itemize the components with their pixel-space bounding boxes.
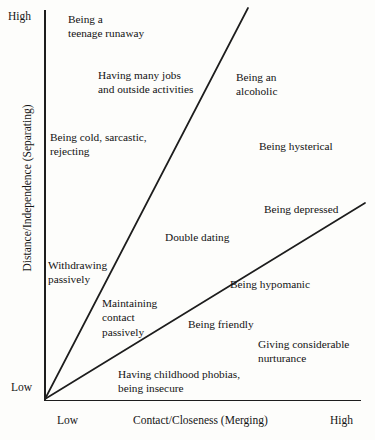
label-alcoholic: Being an alcoholic (236, 70, 277, 99)
figure-root: High Low Low High Contact/Closeness (Mer… (0, 0, 375, 440)
label-hypomanic: Being hypomanic (230, 277, 310, 291)
label-maintaining-contact: Maintaining contact passively (102, 296, 157, 339)
label-friendly: Being friendly (188, 317, 254, 331)
label-double-dating: Double dating (165, 230, 229, 244)
label-cold-sarcastic: Being cold, sarcastic, rejecting (50, 130, 147, 159)
label-withdrawing: Withdrawing passively (48, 258, 107, 287)
label-hysterical: Being hysterical (259, 139, 333, 153)
label-childhood-phobias: Having childhood phobias, being insecure (118, 367, 240, 396)
label-nurturance: Giving considerable nurturance (258, 337, 349, 366)
steep-divider-line (45, 8, 248, 399)
label-depressed: Being depressed (264, 202, 338, 216)
label-teenage-runaway: Being a teenage runaway (68, 12, 144, 41)
label-many-jobs: Having many jobs and outside activities (98, 68, 193, 97)
